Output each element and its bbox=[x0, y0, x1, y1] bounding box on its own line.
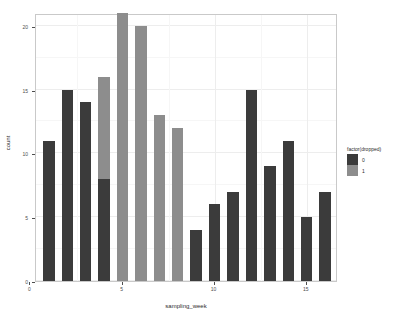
bar[interactable] bbox=[319, 192, 330, 281]
bar-segment[interactable] bbox=[172, 128, 183, 281]
legend-items: 01 bbox=[347, 154, 399, 176]
y-tick-mark bbox=[32, 154, 35, 155]
y-tick-label: 0 bbox=[12, 279, 28, 285]
bar[interactable] bbox=[264, 166, 275, 281]
bar[interactable] bbox=[62, 90, 73, 281]
y-tick-mark bbox=[32, 27, 35, 28]
bar-segment[interactable] bbox=[246, 90, 257, 281]
bar[interactable] bbox=[172, 128, 183, 281]
y-tick-label: 10 bbox=[12, 151, 28, 157]
y-tick-mark bbox=[32, 282, 35, 283]
bar-segment[interactable] bbox=[135, 26, 146, 281]
bar-segment[interactable] bbox=[117, 13, 128, 281]
legend-label: 1 bbox=[362, 168, 365, 174]
bar-segment[interactable] bbox=[209, 204, 220, 281]
legend-swatch bbox=[347, 165, 358, 176]
legend-label: 0 bbox=[362, 157, 365, 163]
y-axis-title: count bbox=[5, 118, 11, 168]
bar-segment[interactable] bbox=[283, 141, 294, 281]
legend-item[interactable]: 0 bbox=[347, 154, 399, 165]
bar[interactable] bbox=[43, 141, 54, 281]
y-tick-label: 15 bbox=[12, 88, 28, 94]
bar[interactable] bbox=[80, 102, 91, 281]
bar[interactable] bbox=[209, 204, 220, 281]
bar[interactable] bbox=[301, 217, 312, 281]
x-tick-mark bbox=[306, 282, 307, 285]
bars-layer bbox=[36, 15, 336, 281]
bar[interactable] bbox=[117, 13, 128, 281]
chart-container: 05101520 051015 sampling_week count fact… bbox=[0, 0, 401, 327]
bar-segment[interactable] bbox=[319, 192, 330, 281]
bar-segment[interactable] bbox=[190, 230, 201, 281]
y-tick-label: 20 bbox=[12, 24, 28, 30]
x-tick-label: 10 bbox=[206, 286, 222, 292]
plot-panel bbox=[35, 14, 337, 282]
x-axis-title: sampling_week bbox=[35, 303, 337, 309]
x-tick-mark bbox=[29, 282, 30, 285]
bar-segment[interactable] bbox=[98, 179, 109, 281]
bar-segment[interactable] bbox=[80, 102, 91, 281]
y-tick-label: 5 bbox=[12, 215, 28, 221]
legend: factor(dropped) 01 bbox=[347, 146, 399, 176]
legend-item[interactable]: 1 bbox=[347, 165, 399, 176]
y-tick-mark bbox=[32, 91, 35, 92]
bar-segment[interactable] bbox=[301, 217, 312, 281]
bar-segment[interactable] bbox=[98, 77, 109, 179]
bar[interactable] bbox=[227, 192, 238, 281]
bar-segment[interactable] bbox=[62, 90, 73, 281]
bar-segment[interactable] bbox=[227, 192, 238, 281]
bar[interactable] bbox=[98, 77, 109, 281]
bar-segment[interactable] bbox=[264, 166, 275, 281]
bar[interactable] bbox=[190, 230, 201, 281]
x-tick-mark bbox=[214, 282, 215, 285]
y-tick-mark bbox=[32, 218, 35, 219]
x-tick-label: 5 bbox=[114, 286, 130, 292]
legend-swatch bbox=[347, 154, 358, 165]
x-tick-label: 0 bbox=[21, 286, 37, 292]
bar[interactable] bbox=[154, 115, 165, 281]
x-tick-label: 15 bbox=[298, 286, 314, 292]
x-tick-mark bbox=[122, 282, 123, 285]
bar[interactable] bbox=[283, 141, 294, 281]
legend-title: factor(dropped) bbox=[347, 146, 399, 152]
bar-segment[interactable] bbox=[154, 115, 165, 281]
bar[interactable] bbox=[135, 26, 146, 281]
bar-segment[interactable] bbox=[43, 141, 54, 281]
bar[interactable] bbox=[246, 90, 257, 281]
